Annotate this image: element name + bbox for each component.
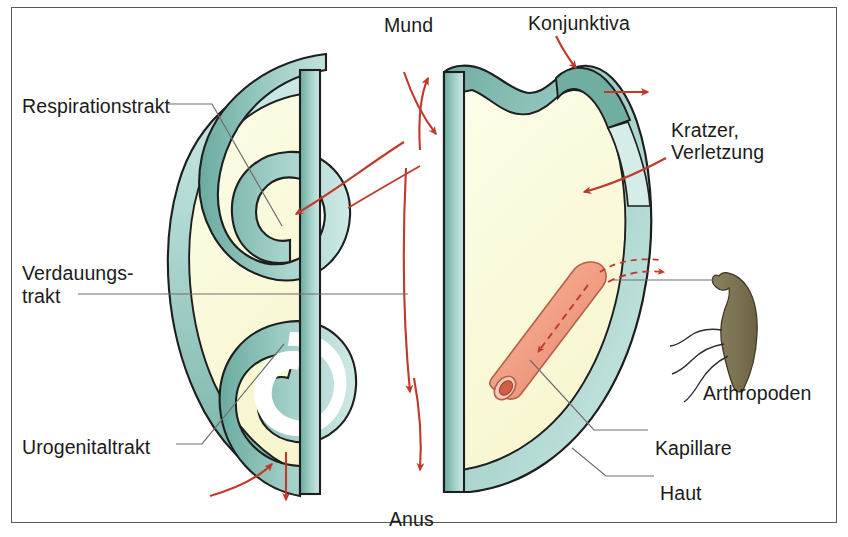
label-kratzer-line2: Verletzung — [671, 141, 764, 164]
label-konjunktiva: Konjunktiva — [528, 12, 630, 35]
arrow-konjunktiva-in — [556, 36, 576, 68]
label-verdauungstrakt-line1: Verdauungs- — [22, 262, 134, 285]
label-anus: Anus — [389, 508, 434, 531]
label-arthropoden: Arthropoden — [703, 382, 811, 405]
label-respirationstrakt: Respirationstrakt — [22, 95, 170, 118]
left-body-right-edge — [300, 70, 320, 494]
arrow-mund-long-down — [404, 168, 410, 392]
label-mund: Mund — [384, 14, 433, 37]
right-body-left-edge — [444, 72, 464, 492]
left-body-group — [168, 54, 356, 496]
arthropoden-leg-1 — [670, 329, 722, 346]
label-kratzer-line1: Kratzer, — [671, 119, 739, 142]
figure-root: Respirationstrakt Verdauungs- trakt Urog… — [0, 0, 848, 537]
arrow-anus-down — [414, 378, 421, 470]
label-urogenitaltrakt: Urogenitaltrakt — [22, 436, 150, 459]
label-kapillare: Kapillare — [655, 437, 732, 460]
right-body-group — [444, 66, 651, 492]
arthropoden-leg-2 — [672, 344, 724, 374]
label-verdauungstrakt-line2: trakt — [22, 285, 60, 308]
arthropoden-body — [712, 273, 757, 392]
leader-haut — [572, 448, 654, 476]
respirationstrakt-band — [199, 54, 350, 281]
label-haut: Haut — [660, 482, 702, 505]
